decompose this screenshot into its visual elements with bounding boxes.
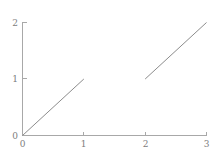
y-tick-label-1: 1 <box>12 74 18 84</box>
line-segment-2 <box>145 23 206 80</box>
x-tick-label-0: 0 <box>20 139 26 149</box>
x-tick-label-1: 1 <box>81 139 87 149</box>
y-tick-label-2: 2 <box>12 18 18 28</box>
plot-canvas: 0 1 2 3 0 1 2 <box>0 0 216 160</box>
x-tick-label-2: 2 <box>143 139 149 149</box>
chart-figure: 0 1 2 3 0 1 2 <box>0 0 216 160</box>
line-segment-1 <box>23 79 84 136</box>
y-tick-label-0: 0 <box>12 131 18 141</box>
data-series-group <box>23 23 207 136</box>
x-tick-label-3: 3 <box>204 139 210 149</box>
